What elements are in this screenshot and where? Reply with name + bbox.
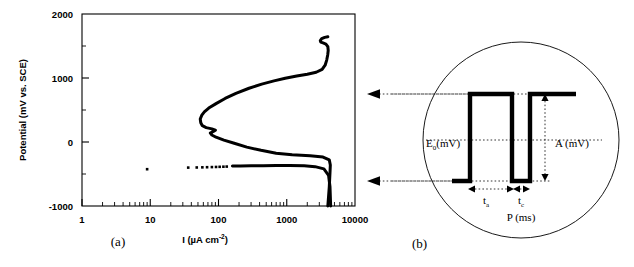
- y-axis-tick-labels: 200010000-1000: [49, 9, 73, 212]
- cathodic-data-points-point: [211, 166, 214, 169]
- x-axis-tick-labels: 110100100010000: [79, 214, 368, 225]
- amplitude-label: A (mV): [555, 137, 589, 150]
- cathodic-data-points-point: [222, 165, 225, 168]
- cathodic-data-points-point: [146, 168, 149, 171]
- x-tick-label: 100: [211, 214, 227, 225]
- polarization-chart-svg: 200010000-1000 110100100010000 Potential…: [0, 0, 390, 267]
- plot-frame: [82, 14, 355, 206]
- on-time-arrow-head-right: [507, 186, 514, 193]
- curve-group: [200, 37, 330, 206]
- figure-container: 200010000-1000 110100100010000 Potential…: [0, 0, 634, 267]
- cathodic-data-points-point: [218, 166, 221, 169]
- x-tick-label: 1000: [276, 214, 297, 225]
- amplitude-arrow: [541, 94, 548, 181]
- baseline-potential-unit: (mV): [436, 137, 460, 150]
- cathodic-branch: [232, 166, 330, 206]
- plot-border: [82, 14, 355, 206]
- y-tick-label: -1000: [49, 201, 73, 212]
- scatter-group: [146, 165, 228, 170]
- on-time-label: ta: [483, 194, 490, 209]
- x-axis-ticks: [82, 199, 352, 206]
- cathodic-data-points-point: [225, 165, 228, 168]
- amplitude-arrow-head-down: [541, 174, 548, 181]
- y-tick-label: 1000: [52, 73, 73, 84]
- on-time-arrow: [468, 186, 514, 193]
- anodic-polarization-curve: [200, 37, 330, 206]
- on-time-subscript: a: [486, 201, 490, 209]
- waveform-svg: E0(mV) A (mV) ta tc P (ms) (b): [390, 0, 634, 267]
- baseline-potential-label: E0(mV): [426, 137, 460, 152]
- off-time-subscript: c: [521, 201, 524, 209]
- off-time-label: tc: [518, 194, 524, 209]
- svg-text:I (µA cm-2): I (µA cm-2): [182, 233, 228, 245]
- y-tick-label: 2000: [52, 9, 73, 20]
- on-time-arrow-head-left: [468, 186, 475, 193]
- y-axis-ticks: [82, 46, 89, 174]
- x-axis-title: I (µA cm-2): [182, 233, 228, 245]
- x-tick-label: 10: [145, 214, 156, 225]
- y-axis-title: Potential (mV vs. SCE): [17, 59, 28, 161]
- off-time-arrow: [513, 186, 530, 193]
- x-tick-label: 10000: [342, 214, 368, 225]
- panel-label-a: (a): [111, 234, 125, 249]
- panel-a-polarization-chart: 200010000-1000 110100100010000 Potential…: [0, 0, 390, 267]
- off-time-arrow-head-right: [523, 186, 530, 193]
- off-time-arrow-head-left: [513, 186, 520, 193]
- x-axis-title-main: I (µA cm: [182, 234, 219, 245]
- y-tick-label: 0: [68, 137, 73, 148]
- period-label: P (ms): [507, 211, 536, 224]
- cathodic-data-points-point: [195, 166, 198, 169]
- cathodic-data-points-point: [201, 166, 204, 169]
- cathodic-data-points-point: [206, 166, 209, 169]
- cathodic-data-points-point: [187, 166, 190, 169]
- cathodic-data-points-point: [215, 166, 218, 169]
- panel-b-waveform-diagram: E0(mV) A (mV) ta tc P (ms) (b): [390, 0, 634, 267]
- x-axis-title-tail: ): [225, 234, 228, 245]
- x-tick-label: 1: [79, 214, 85, 225]
- panel-label-b: (b): [412, 236, 427, 251]
